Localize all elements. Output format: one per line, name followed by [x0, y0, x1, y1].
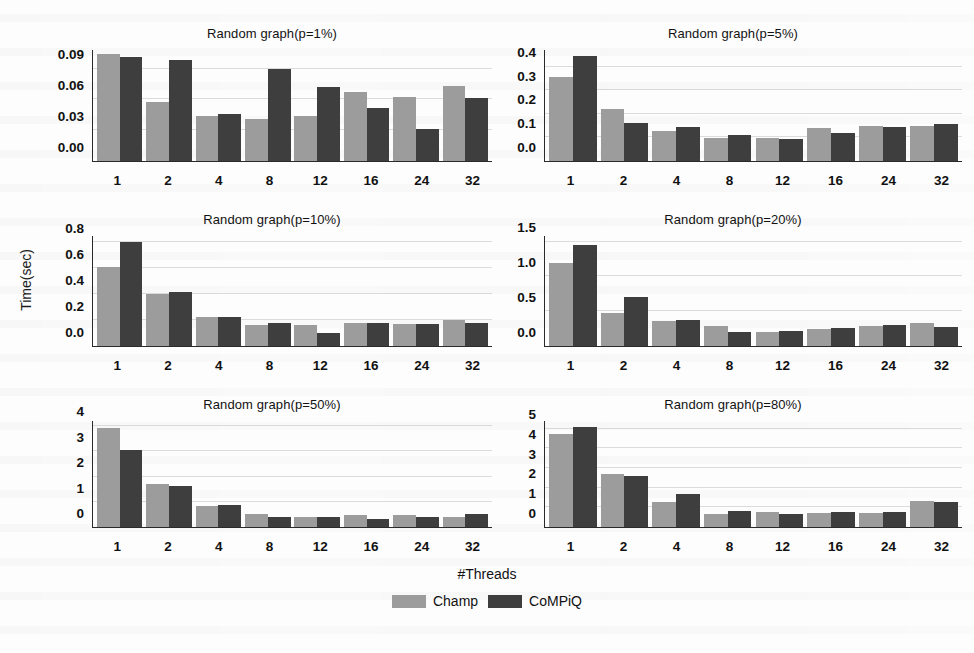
- legend-swatch-compiq: [488, 595, 522, 608]
- x-tick-label: 24: [862, 539, 915, 554]
- bar-compiq: [624, 123, 648, 161]
- bar-compiq: [169, 486, 192, 527]
- subplot-5: Random graph(p=80%)012345124812162432: [498, 381, 968, 562]
- bar-champ: [859, 513, 883, 527]
- bar-compiq: [934, 502, 958, 527]
- x-tick-label: 24: [862, 173, 915, 188]
- figure-root: Time(sec) Random graph(p=1%)0.000.030.06…: [0, 0, 974, 653]
- x-axis-label: #Threads: [0, 566, 974, 582]
- x-tick-label: 12: [295, 173, 346, 188]
- plot-area: 0.00.10.20.30.4: [498, 50, 962, 162]
- x-tick-labels: 124812162432: [92, 173, 498, 188]
- bar-compiq: [367, 108, 390, 161]
- subplot-title: Random graph(p=10%): [46, 212, 498, 227]
- subplot-0: Random graph(p=1%)0.000.030.060.09124812…: [46, 10, 498, 196]
- bar-group: [754, 421, 806, 527]
- x-tick-label: 32: [447, 173, 498, 188]
- y-tick-labels: 0.00.10.20.30.4: [498, 50, 542, 162]
- bar-compiq: [120, 242, 143, 346]
- axes: [92, 50, 492, 162]
- x-tick-label: 2: [597, 358, 650, 373]
- y-axis-label: Time(sec): [6, 0, 46, 560]
- x-tick-label: 4: [650, 173, 703, 188]
- bar-compiq: [728, 511, 752, 527]
- bar-group: [441, 421, 490, 527]
- bar-group: [441, 50, 490, 161]
- x-tick-labels: 124812162432: [92, 539, 498, 554]
- x-tick-label: 24: [397, 173, 448, 188]
- x-tick-label: 32: [915, 539, 968, 554]
- bar-compiq: [416, 129, 439, 161]
- x-tick-label: 4: [650, 539, 703, 554]
- legend-item-compiq: CoMPiQ: [488, 593, 582, 609]
- x-tick-labels: 124812162432: [92, 358, 498, 373]
- x-tick-labels: 124812162432: [544, 173, 968, 188]
- bar-champ: [601, 474, 625, 527]
- bar-group: [650, 50, 702, 161]
- bar-compiq: [317, 87, 340, 161]
- bar-compiq: [169, 292, 192, 346]
- bar-compiq: [779, 331, 803, 346]
- bar-compiq: [317, 333, 340, 346]
- subplot-title: Random graph(p=5%): [498, 26, 968, 41]
- bar-group: [908, 50, 960, 161]
- x-tick-label: 32: [915, 358, 968, 373]
- bar-champ: [549, 77, 573, 161]
- y-tick-label: 3: [76, 429, 84, 444]
- bar-group: [293, 50, 342, 161]
- y-tick-label: 1.5: [517, 219, 536, 234]
- bar-compiq: [573, 56, 597, 161]
- y-tick-label: 0.03: [58, 108, 84, 123]
- y-tick-label: 0.4: [517, 44, 536, 59]
- bar-group: [95, 421, 144, 527]
- y-tick-label: 1: [76, 480, 84, 495]
- bar-compiq: [218, 505, 241, 527]
- bar-champ: [196, 506, 219, 527]
- x-tick-label: 8: [703, 358, 756, 373]
- bar-group: [702, 50, 754, 161]
- x-tick-label: 12: [295, 358, 346, 373]
- y-tick-label: 3: [528, 446, 536, 461]
- subplot-1: Random graph(p=5%)0.00.10.20.30.41248121…: [498, 10, 968, 196]
- y-tick-labels: 0.000.030.060.09: [46, 50, 90, 162]
- bar-champ: [652, 131, 676, 161]
- bar-champ: [910, 126, 934, 161]
- bar-compiq: [573, 427, 597, 527]
- x-tick-label: 1: [92, 358, 143, 373]
- x-tick-label: 16: [346, 539, 397, 554]
- bar-champ: [704, 138, 728, 161]
- bar-container: [545, 236, 962, 346]
- bar-group: [857, 50, 909, 161]
- bar-champ: [756, 138, 780, 161]
- plot-area: 0.00.51.01.5: [498, 236, 962, 347]
- bar-group: [754, 50, 806, 161]
- axes: [544, 50, 962, 162]
- bar-champ: [910, 501, 934, 528]
- bar-compiq: [831, 133, 855, 161]
- x-tick-label: 24: [862, 358, 915, 373]
- legend-item-champ: Champ: [392, 593, 478, 609]
- y-tick-label: 0: [76, 506, 84, 521]
- plot-area: 01234: [46, 421, 492, 528]
- bar-group: [857, 236, 909, 346]
- bar-compiq: [779, 139, 803, 161]
- bar-group: [547, 236, 599, 346]
- bar-container: [93, 50, 492, 161]
- bar-group: [391, 236, 440, 346]
- bar-champ: [756, 332, 780, 346]
- x-tick-label: 16: [346, 173, 397, 188]
- bar-group: [194, 50, 243, 161]
- y-tick-label: 0.0: [517, 325, 536, 340]
- y-axis-label-text: Time(sec): [18, 249, 34, 311]
- bar-champ: [146, 102, 169, 161]
- bar-champ: [245, 325, 268, 346]
- x-tick-label: 12: [756, 358, 809, 373]
- bar-champ: [344, 323, 367, 346]
- bar-champ: [97, 54, 120, 161]
- bar-compiq: [934, 124, 958, 161]
- y-tick-label: 2: [528, 466, 536, 481]
- y-tick-label: 1: [528, 486, 536, 501]
- bar-champ: [652, 321, 676, 346]
- y-tick-label: 0.09: [58, 46, 84, 61]
- bar-compiq: [268, 69, 291, 162]
